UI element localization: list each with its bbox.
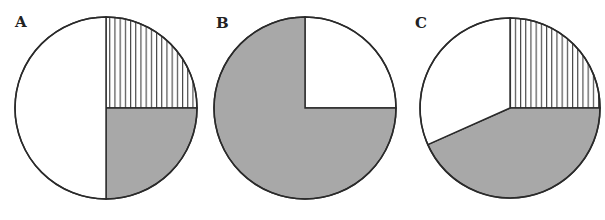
slice-white <box>15 17 106 199</box>
pie-a <box>15 17 197 199</box>
slice-striped <box>510 18 600 108</box>
pie-chart-figure: A B C <box>0 0 605 220</box>
label-a: A <box>14 13 27 31</box>
label-c: C <box>415 14 427 32</box>
pie-b <box>214 17 396 199</box>
pie-c <box>420 18 600 198</box>
slice-gray <box>106 108 197 199</box>
pie-charts-group <box>15 17 600 199</box>
label-b: B <box>216 14 229 32</box>
slice-striped <box>106 17 197 108</box>
slice-white <box>305 17 396 108</box>
